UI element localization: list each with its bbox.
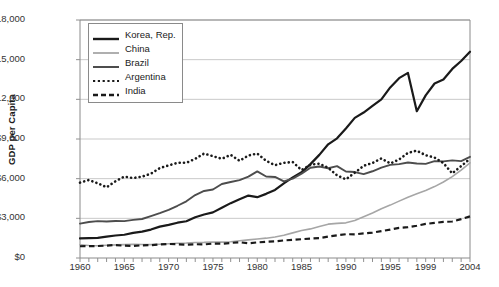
legend-label-india: India [125,86,146,96]
legend-swatch-brazil [93,58,119,68]
series-line-argentina [80,151,470,188]
legend-label-argentina: Argentina [125,72,166,82]
legend-item-korea-rep: Korea, Rep. [93,28,177,42]
legend-item-india: India [93,84,177,98]
plot-area [0,0,499,287]
legend-swatch-korea-rep [93,30,119,40]
chart-legend: Korea, Rep. China Brazil Argentina India [88,23,183,103]
legend-label-korea-rep: Korea, Rep. [125,30,176,40]
legend-swatch-china [93,44,119,54]
legend-label-china: China [125,44,150,54]
legend-label-brazil: Brazil [125,58,149,68]
legend-item-argentina: Argentina [93,70,177,84]
legend-swatch-india [93,86,119,96]
gdp-per-capita-line-chart: GDP per Capita $0$3,000$6,000$9,000$12,0… [0,0,499,287]
legend-item-china: China [93,42,177,56]
legend-swatch-argentina [93,72,119,82]
legend-item-brazil: Brazil [93,56,177,70]
